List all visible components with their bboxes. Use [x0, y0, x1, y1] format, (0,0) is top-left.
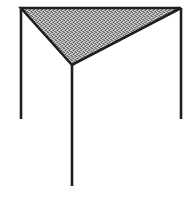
figure-canvas: Three-legged stand with shaded triangula… [0, 0, 190, 199]
tripod-drawing [0, 0, 190, 199]
